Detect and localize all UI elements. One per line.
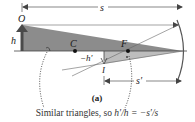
image-height-label: −h′ [80,53,94,63]
center-label: C [70,38,77,49]
object-distance-label: s [100,2,104,13]
center-of-curvature-dot [73,49,77,53]
caption: Similar triangles, so h′/h = −s′/s [36,108,159,118]
object-label: O [18,13,25,24]
callout-arc-right [125,56,132,108]
caption-equation: h′/h = −s′/s [114,108,158,118]
similar-triangle-object [22,25,183,51]
focal-point-dot [126,49,130,53]
callout-arc-left [40,52,47,108]
image-label: I [101,65,106,75]
image-distance-label: s′ [136,75,143,86]
image-distance-dimension: s′ [104,75,181,86]
object-height-label: h [11,35,16,46]
focal-point-label: F [120,38,128,49]
caption-prefix: Similar triangles, so [36,108,115,118]
object-distance-dimension: s [22,2,182,13]
angle-mark-image [126,56,128,58]
concave-mirror-diagram: s O h C F −h′ I s′ (a) [0,0,195,122]
panel-label: (a) [92,93,103,103]
